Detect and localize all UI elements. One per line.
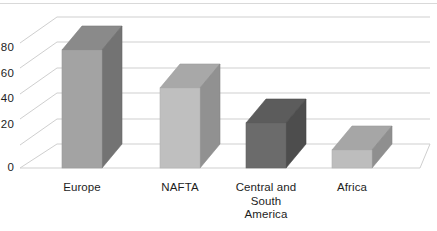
x-label-nafta: NAFTA [135,181,225,195]
bar-europe[interactable] [62,26,122,168]
chart-container: 80 60 40 20 0 Europe NAFTA Central and S… [0,0,437,231]
x-label-central-line3: America [221,208,311,222]
x-label-africa: Africa [307,181,397,195]
x-label-africa-line1: Africa [307,181,397,195]
y-tick-label-0: 0 [0,162,14,174]
chart-plot-area [0,0,437,231]
y-tick-label-80: 80 [0,42,14,54]
x-label-europe: Europe [37,181,127,195]
x-label-central-line1: Central and [221,181,311,195]
y-tick-label-20: 20 [0,119,14,131]
axis-depth-edges [20,17,57,168]
y-tick-label-40: 40 [0,93,14,105]
bar-africa[interactable] [332,126,392,168]
x-label-europe-line1: Europe [37,181,127,195]
y-tick-label-60: 60 [0,68,14,80]
bar-nafta[interactable] [160,64,220,168]
bar-central-and-south-america[interactable] [246,99,306,168]
x-label-central-line2: South [221,195,311,209]
x-label-central-and-south-america: Central and South America [221,181,311,222]
x-label-nafta-line1: NAFTA [135,181,225,195]
